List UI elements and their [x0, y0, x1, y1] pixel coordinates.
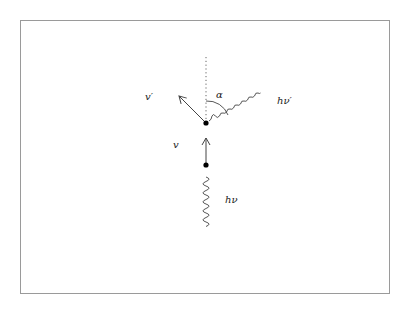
incident-photon-wave [203, 177, 209, 227]
electron-before-dot [203, 162, 208, 167]
compton-diagram [0, 0, 408, 314]
incident-photon-label: hν [225, 195, 238, 205]
scattered-photon-label: hν′ [277, 96, 292, 106]
incident-velocity-label: v [173, 140, 179, 150]
electron-after-dot [203, 120, 208, 125]
scattered-velocity-label: v′ [145, 92, 153, 102]
scattered-velocity-arrow [179, 96, 206, 123]
angle-label: α [216, 90, 223, 100]
